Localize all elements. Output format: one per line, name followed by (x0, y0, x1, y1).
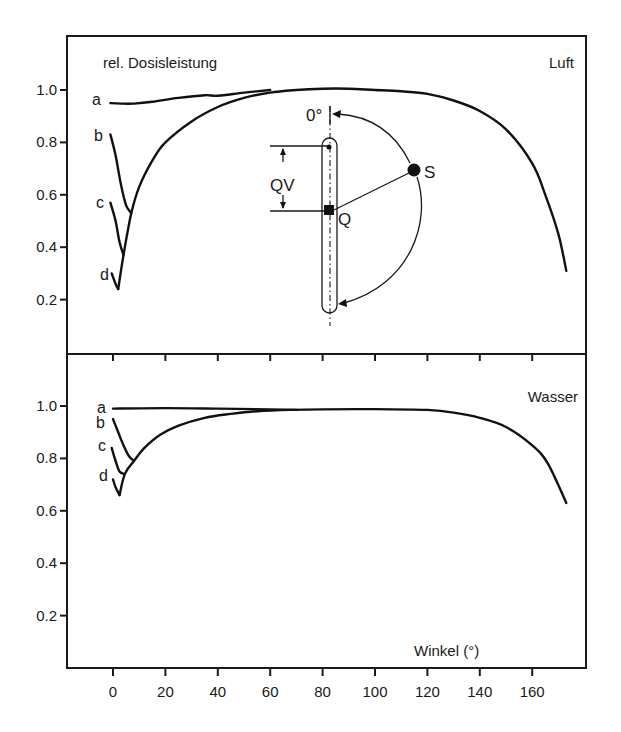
y-tick-label: 0.2 (36, 607, 57, 624)
s-label: S (424, 163, 435, 182)
panel-label-wasser: Wasser (528, 388, 578, 405)
dose-rate-figure: 0.20.40.60.81.00.20.40.60.81.00204060801… (0, 0, 621, 732)
x-axis-title: Winkel (°) (414, 642, 479, 659)
arrow-head-lower (338, 299, 347, 307)
y-tick-label: 0.4 (36, 554, 57, 571)
x-tick-label: 100 (362, 683, 387, 700)
qv-arrow-head-upper (280, 148, 286, 155)
y-axis-title: rel. Dosisleistung (103, 54, 217, 71)
y-tick-label: 0.2 (36, 291, 57, 308)
curve-label-b-bottom: b (96, 414, 105, 431)
curve-envelope-wasser (120, 409, 567, 503)
qv-label: QV (270, 176, 295, 195)
curve-label-d-bottom: d (99, 467, 108, 484)
q-to-s-line (334, 171, 413, 210)
x-tick-label: 60 (262, 683, 279, 700)
curve-label-c-top: c (96, 194, 104, 211)
rotation-arc-lower (344, 177, 422, 303)
y-tick-label: 0.8 (36, 133, 57, 150)
curve-label-c-bottom: c (98, 437, 106, 454)
y-tick-label: 0.8 (36, 449, 57, 466)
curve-envelope-luft (118, 89, 566, 290)
detector-point-s (408, 164, 421, 177)
source-point-q (324, 205, 334, 215)
curve-label-b-top: b (94, 127, 103, 144)
geometry-diagram: 0° Q S QV (270, 106, 435, 326)
curve-d-wasser (113, 479, 120, 495)
x-tick-label: 140 (467, 683, 492, 700)
curve-label-a-top: a (92, 91, 101, 108)
curve-c-luft (110, 203, 123, 255)
curve-d-luft (112, 273, 119, 289)
y-tick-label: 1.0 (36, 397, 57, 414)
rotation-arc-upper (338, 114, 410, 163)
qv-arrow-head-lower (280, 202, 286, 209)
zero-degree-label: 0° (306, 106, 322, 125)
x-tick-label: 120 (415, 683, 440, 700)
axis-ticks: 0.20.40.60.81.00.20.40.60.81.00204060801… (36, 81, 545, 700)
y-tick-label: 0.4 (36, 238, 57, 255)
tube-end-dot (327, 145, 332, 150)
x-tick-label: 80 (314, 683, 331, 700)
panel-label-luft: Luft (549, 54, 575, 71)
y-tick-label: 0.6 (36, 186, 57, 203)
x-tick-label: 160 (520, 683, 545, 700)
y-tick-label: 0.6 (36, 502, 57, 519)
curve-label-d-top: d (100, 266, 109, 283)
curve-b-wasser (113, 419, 134, 461)
y-tick-label: 1.0 (36, 81, 57, 98)
curve-c-wasser (112, 448, 125, 474)
curve-b-luft (110, 135, 131, 214)
x-tick-label: 20 (157, 683, 174, 700)
q-label: Q (338, 210, 351, 229)
arrow-head-upper (332, 110, 341, 118)
x-tick-label: 40 (209, 683, 226, 700)
x-tick-label: 0 (109, 683, 117, 700)
curves (110, 89, 566, 503)
